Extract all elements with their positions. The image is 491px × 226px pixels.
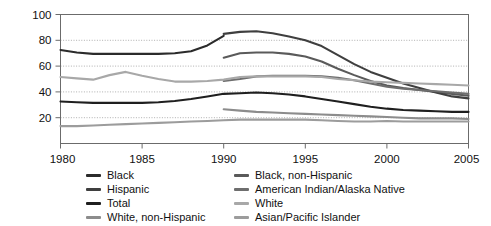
legend-item: Total — [86, 196, 234, 210]
y-axis-label: 60 — [39, 60, 52, 72]
y-axis-labels: 10080604020 — [32, 9, 51, 124]
y-axis-label: 40 — [39, 86, 52, 98]
series-line — [61, 72, 469, 86]
y-axis-label: 20 — [39, 112, 52, 124]
series-line — [224, 31, 469, 98]
x-axis-labels: 198019851990199520002005 — [50, 153, 480, 165]
legend-swatch-icon — [234, 216, 249, 219]
legend-item: Black — [86, 168, 234, 182]
x-axis-label: 1995 — [293, 153, 319, 165]
legend-item: American Indian/Alaska Native — [234, 182, 486, 196]
x-axis-label: 2000 — [374, 153, 400, 165]
legend-label: Black — [107, 168, 134, 182]
legend-swatch-icon — [86, 188, 101, 191]
series-line — [61, 93, 469, 112]
legend-label: White, non-Hispanic — [107, 210, 205, 224]
legend-item: Asian/Pacific Islander — [234, 210, 486, 224]
series-line — [61, 36, 224, 54]
legend-item: Black, non-Hispanic — [234, 168, 486, 182]
legend-item: Hispanic — [86, 182, 234, 196]
legend-label: American Indian/Alaska Native — [255, 182, 405, 196]
chart-legend: BlackHispanicTotalWhite, non-HispanicBla… — [86, 168, 486, 224]
x-axis-label: 1985 — [129, 153, 155, 165]
x-axis-label: 1980 — [50, 153, 76, 165]
axis-tick-marks — [56, 15, 469, 149]
legend-label: Black, non-Hispanic — [255, 168, 352, 182]
y-axis-label: 80 — [39, 34, 52, 46]
legend-swatch-icon — [86, 216, 101, 219]
legend-label: Hispanic — [107, 182, 149, 196]
legend-item: White, non-Hispanic — [86, 210, 234, 224]
legend-swatch-icon — [234, 188, 249, 191]
line-chart: 10080604020 198019851990199520002005 Bla… — [0, 0, 491, 226]
legend-swatch-icon — [234, 174, 249, 177]
x-axis-label: 1990 — [211, 153, 237, 165]
series-line — [61, 120, 469, 126]
legend-swatch-icon — [86, 202, 101, 205]
legend-label: White — [255, 196, 283, 210]
legend-swatch-icon — [86, 174, 101, 177]
legend-label: Asian/Pacific Islander — [255, 210, 360, 224]
legend-item: White — [234, 196, 486, 210]
legend-swatch-icon — [234, 202, 249, 205]
x-axis-label: 2005 — [454, 153, 480, 165]
legend-label: Total — [107, 196, 130, 210]
series-lines — [61, 31, 469, 126]
y-axis-label: 100 — [32, 9, 51, 21]
